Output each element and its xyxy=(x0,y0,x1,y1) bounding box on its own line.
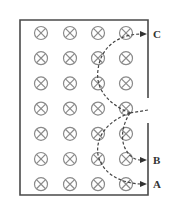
trajectory-to-a xyxy=(98,113,141,184)
into-page-symbol-icon xyxy=(35,102,48,115)
arrow-c-icon xyxy=(140,31,147,37)
into-page-symbol-icon xyxy=(35,77,48,90)
into-page-symbol-icon xyxy=(120,77,133,90)
into-page-symbol-icon xyxy=(64,27,77,40)
into-page-symbol-icon xyxy=(64,127,77,140)
into-page-symbol-icon xyxy=(64,77,77,90)
into-page-symbol-icon xyxy=(35,52,48,65)
into-page-symbol-icon xyxy=(64,178,77,191)
into-page-symbol-icon xyxy=(92,102,105,115)
arrowheads xyxy=(140,31,147,187)
into-page-symbol-icon xyxy=(64,52,77,65)
field-into-page-symbols xyxy=(35,27,133,191)
into-page-symbol-icon xyxy=(35,127,48,140)
into-page-symbol-icon xyxy=(35,27,48,40)
trajectory-to-c xyxy=(98,34,140,113)
into-page-symbol-icon xyxy=(64,153,77,166)
into-page-symbol-icon xyxy=(64,102,77,115)
into-page-symbol-icon xyxy=(120,153,133,166)
magnetic-field-diagram xyxy=(0,0,172,204)
arrow-b-icon xyxy=(140,157,147,163)
label-c: C xyxy=(153,29,161,40)
into-page-symbol-icon xyxy=(120,52,133,65)
arrow-a-icon xyxy=(140,181,147,187)
into-page-symbol-icon xyxy=(92,27,105,40)
into-page-symbol-icon xyxy=(92,77,105,90)
into-page-symbol-icon xyxy=(120,27,133,40)
label-a: A xyxy=(153,179,161,190)
into-page-symbol-icon xyxy=(92,178,105,191)
into-page-symbol-icon xyxy=(35,153,48,166)
label-b: B xyxy=(153,155,160,166)
into-page-symbol-icon xyxy=(35,178,48,191)
into-page-symbol-icon xyxy=(92,52,105,65)
into-page-symbol-icon xyxy=(120,127,133,140)
into-page-symbol-icon xyxy=(120,178,133,191)
